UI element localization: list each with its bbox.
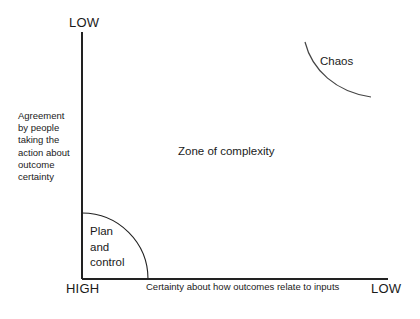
x-axis-right-marker-low: LOW xyxy=(371,281,401,296)
x-axis-left-marker-high: HIGH xyxy=(66,281,99,296)
region-label-plan-and-control: Plan and control xyxy=(90,224,125,271)
y-axis-label: Agreement by people taking the action ab… xyxy=(18,110,80,183)
x-axis-label: Certainty about how outcomes relate to i… xyxy=(146,281,339,293)
chaos-arc xyxy=(305,42,371,97)
y-axis-top-marker-low: LOW xyxy=(69,15,99,30)
region-label-chaos: Chaos xyxy=(320,55,353,67)
stacey-matrix-diagram: LOW HIGH LOW Agreement by people taking … xyxy=(0,0,420,319)
region-label-zone-of-complexity: Zone of complexity xyxy=(178,145,275,157)
